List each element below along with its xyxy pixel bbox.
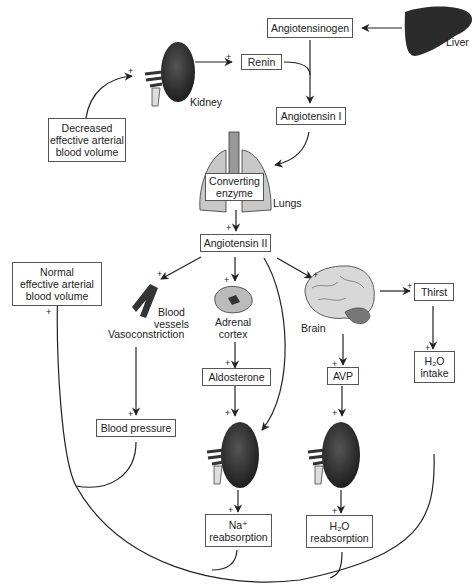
brain-label: Brain — [301, 322, 326, 334]
vasoconstriction-label: Vasoconstriction — [108, 328, 184, 340]
plus-sign: + — [407, 282, 412, 291]
na-reabsorption-box: Na⁺ reabsorption — [205, 514, 272, 547]
normal-volume-line-1: Normal — [40, 266, 74, 278]
plus-sign: + — [225, 409, 230, 418]
angiotensin-i-box: Angiotensin I — [276, 107, 346, 125]
angiotensin-ii-box: Angiotensin II — [200, 234, 271, 252]
adrenal-cortex-line-2: cortex — [215, 328, 251, 340]
plus-sign: + — [128, 410, 133, 419]
kidney-icon — [308, 422, 360, 488]
angiotensinogen-box: Angiotensinogen — [267, 18, 353, 38]
plus-sign: + — [157, 270, 162, 279]
plus-sign: + — [226, 53, 231, 62]
liver-icon — [405, 7, 472, 56]
converting-enzyme-line-2: enzyme — [216, 187, 253, 199]
plus-sign: + — [332, 360, 337, 369]
thirst-box: Thirst — [414, 283, 454, 301]
adrenal-cortex-icon — [215, 286, 252, 312]
plus-sign: + — [228, 506, 233, 515]
decreased-volume-line-2: effective arterial — [50, 134, 124, 146]
normal-volume-box: Normal effective arterial blood volume — [12, 262, 102, 306]
plus-sign: + — [425, 344, 430, 353]
plus-sign: + — [332, 409, 337, 418]
h2o-reabsorption-box: H₂O reabsorption — [306, 515, 373, 548]
na-reabsorption-line-2: reabsorption — [209, 531, 267, 543]
plus-sign: + — [226, 224, 231, 233]
aldosterone-box: Aldosterone — [202, 368, 271, 386]
kidney-label: Kidney — [190, 96, 222, 108]
blood-pressure-box: Blood pressure — [96, 419, 176, 437]
kidney-icon — [145, 42, 195, 106]
plus-sign: + — [224, 276, 229, 285]
plus-sign: + — [46, 308, 51, 317]
kidney-icon — [207, 422, 259, 488]
plus-sign: + — [128, 67, 133, 76]
blood-vessels-label: Blood vessels — [154, 306, 189, 330]
h2o-reabsorption-line-1: H₂O — [330, 520, 350, 532]
adrenal-cortex-line-1: Adrenal — [215, 316, 251, 328]
converting-enzyme-box: Converting enzyme — [205, 173, 264, 201]
adrenal-cortex-label: Adrenal cortex — [215, 316, 251, 340]
normal-volume-line-3: blood volume — [26, 290, 88, 302]
h2o-intake-box: H₂O intake — [414, 351, 455, 383]
lungs-label: Lungs — [273, 197, 302, 209]
decreased-volume-line-3: blood volume — [56, 146, 118, 158]
h2o-intake-line-1: H₂O — [425, 355, 445, 367]
decreased-volume-box: Decreased effective arterial blood volum… — [48, 118, 126, 162]
decreased-volume-line-1: Decreased — [62, 122, 113, 134]
blood-vessels-line-1: Blood — [154, 306, 189, 318]
h2o-reabsorption-line-2: reabsorption — [310, 532, 368, 544]
plus-sign: + — [225, 359, 230, 368]
h2o-intake-line-2: intake — [420, 367, 448, 379]
renin-box: Renin — [241, 54, 282, 70]
plus-sign: + — [313, 271, 318, 280]
na-reabsorption-line-1: Na⁺ — [229, 519, 248, 531]
liver-label: Liver — [446, 36, 469, 48]
normal-volume-line-2: effective arterial — [20, 278, 94, 290]
converting-enzyme-line-1: Converting — [209, 175, 260, 187]
avp-box: AVP — [327, 367, 359, 385]
plus-sign: + — [332, 507, 337, 516]
